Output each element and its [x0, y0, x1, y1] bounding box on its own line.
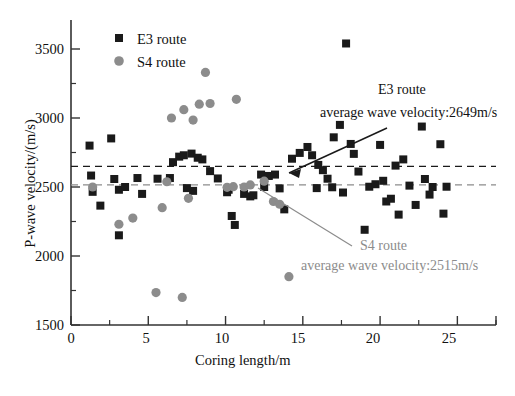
data-point-e3 [154, 175, 162, 183]
data-point-s4 [260, 177, 269, 186]
legend-markers [114, 34, 124, 66]
data-point-e3 [121, 183, 129, 191]
data-point-s4 [167, 113, 176, 122]
data-point-e3 [387, 195, 395, 203]
x-tick-label-15: 15 [283, 330, 313, 347]
data-point-s4 [178, 293, 187, 302]
data-point-e3 [354, 168, 362, 176]
x-tick-label-10: 10 [207, 330, 237, 347]
data-point-e3 [107, 134, 115, 142]
data-point-e3 [303, 143, 311, 151]
legend-label-e3: E3 route [137, 31, 187, 48]
y-axis-title: P-wave velocity/(m/s) [22, 84, 39, 284]
data-point-e3 [324, 175, 332, 183]
data-point-s4 [184, 194, 193, 203]
data-point-e3 [439, 210, 447, 218]
data-point-e3 [418, 123, 426, 131]
data-point-e3 [189, 187, 197, 195]
data-point-e3 [313, 184, 321, 192]
data-point-e3 [115, 231, 123, 239]
data-point-s4 [114, 220, 123, 229]
data-point-e3 [180, 151, 188, 159]
data-point-e3 [319, 166, 327, 174]
data-point-s4 [201, 68, 210, 77]
y-tick-label-3500: 3500 [20, 41, 64, 58]
data-point-e3 [271, 171, 279, 179]
data-point-e3 [288, 155, 296, 163]
x-tick-label-5: 5 [131, 330, 161, 347]
data-point-e3 [138, 190, 146, 198]
legend-marker-e3 [115, 34, 123, 42]
data-point-s4 [232, 95, 241, 104]
data-point-e3 [86, 142, 94, 150]
data-point-e3 [412, 201, 420, 209]
x-tick-label-0: 0 [56, 330, 86, 347]
data-point-e3 [328, 183, 336, 191]
data-point-e3 [426, 191, 434, 199]
data-point-e3 [371, 180, 379, 188]
legend-label-s4: S4 route [137, 54, 186, 71]
annotation-e3-line2: average wave velocity:2649m/s [320, 105, 497, 121]
legend-marker-s4 [114, 56, 124, 66]
data-point-s4 [162, 177, 171, 186]
data-point-e3 [443, 183, 451, 191]
data-point-e3 [296, 149, 304, 157]
data-point-e3 [214, 174, 222, 182]
data-point-e3 [249, 191, 257, 199]
data-point-e3 [429, 183, 437, 191]
data-point-e3 [330, 133, 338, 141]
data-point-e3 [376, 141, 384, 149]
s4-leader-line [258, 188, 352, 246]
data-point-e3 [276, 184, 284, 192]
data-point-e3 [350, 150, 358, 158]
x-axis-title: Coring length/m [195, 352, 290, 369]
scatter-chart-figure: 3500 3000 2500 2000 1500 0 5 10 15 20 25… [0, 0, 515, 396]
data-point-e3 [421, 175, 429, 183]
data-point-e3 [228, 212, 236, 220]
data-point-e3 [436, 140, 444, 148]
data-point-s4 [284, 272, 293, 281]
data-point-s4 [158, 203, 167, 212]
data-point-e3 [342, 39, 350, 47]
data-point-e3 [395, 211, 403, 219]
data-point-e3 [336, 121, 344, 129]
data-point-e3 [231, 221, 239, 229]
data-point-e3 [110, 175, 118, 183]
data-point-s4 [151, 288, 160, 297]
data-point-e3 [361, 226, 369, 234]
data-point-s4 [229, 182, 238, 191]
data-point-e3 [379, 177, 387, 185]
data-point-e3 [339, 189, 347, 197]
data-point-e3 [392, 162, 400, 170]
x-tick-label-20: 20 [358, 330, 388, 347]
data-point-e3 [405, 182, 413, 190]
data-point-e3 [96, 202, 104, 210]
data-point-e3 [206, 167, 214, 175]
data-point-e3 [133, 174, 141, 182]
data-point-s4 [179, 105, 188, 114]
data-point-s4 [88, 182, 97, 191]
data-point-s4 [195, 100, 204, 109]
data-point-e3 [87, 172, 95, 180]
annotation-s4-line1: S4 route [360, 238, 407, 254]
annotation-e3-line1: E3 route [378, 82, 426, 98]
annotation-s4-line2: average wave velocity:2515m/s [301, 258, 478, 274]
data-point-s4 [205, 99, 214, 108]
axis-lines [71, 20, 496, 325]
data-point-s4 [246, 180, 255, 189]
x-tick-label-25: 25 [434, 330, 464, 347]
data-point-e3 [399, 155, 407, 163]
data-point-e3 [198, 155, 206, 163]
data-point-e3 [308, 151, 316, 159]
data-point-s4 [128, 213, 137, 222]
data-point-s4 [188, 115, 197, 124]
